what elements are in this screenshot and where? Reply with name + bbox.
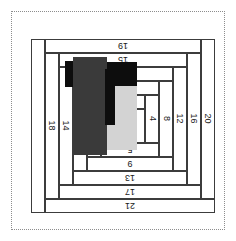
black-notch: [105, 69, 115, 125]
strip-label: 14: [62, 121, 71, 131]
strip-s22: [31, 39, 45, 213]
black-edge: [65, 61, 73, 87]
log-cabin-diagram: 123456789101112131415161718192021: [21, 19, 215, 221]
strip-s21: 21: [45, 199, 215, 213]
strip-label: 19: [118, 42, 128, 51]
strip-label: 16: [190, 114, 199, 124]
strip-s9: 9: [87, 157, 173, 171]
strip-s19: 19: [45, 39, 201, 53]
strip-label: 21: [125, 202, 135, 211]
strip-label: 12: [176, 114, 185, 124]
strip-s13: 13: [73, 171, 187, 185]
strip-s18: 18: [45, 53, 59, 199]
strip-label: 20: [204, 114, 213, 124]
strip-s20: 20: [201, 39, 215, 199]
strip-s12: 12: [173, 67, 187, 171]
strip-s8: 8: [159, 81, 173, 157]
strip-label: 4: [148, 116, 157, 121]
strip-s4: 4: [145, 95, 159, 143]
strip-label: 8: [162, 116, 171, 121]
dark-gray-block: [73, 57, 107, 155]
figure-root: 123456789101112131415161718192021: [0, 0, 236, 241]
strip-label: 9: [128, 160, 133, 169]
strip-label: 18: [48, 121, 57, 131]
strip-s17: 17: [59, 185, 201, 199]
strip-s16: 16: [187, 53, 201, 185]
strip-label: 13: [125, 174, 135, 183]
strip-label: 17: [125, 188, 135, 197]
